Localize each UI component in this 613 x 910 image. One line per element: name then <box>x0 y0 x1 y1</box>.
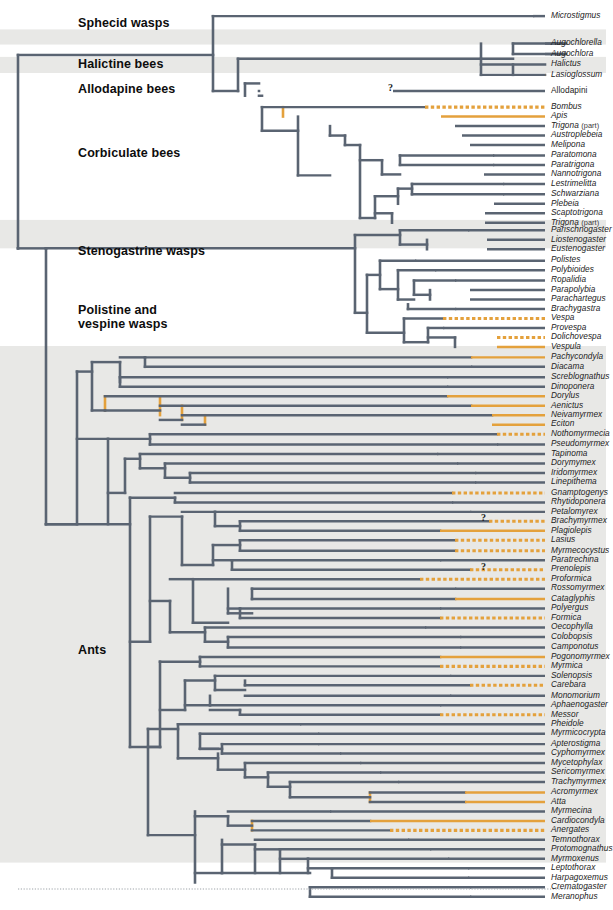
taxon-label: Rhytidoponera <box>551 497 606 506</box>
taxon-label: Austroplebeia <box>551 130 602 139</box>
clade-group-label: Halictine bees <box>78 57 163 71</box>
taxon-label: Augochlorella <box>551 38 602 47</box>
clade-group-label: vespine wasps <box>78 317 168 331</box>
taxon-label: Pseudomyrmex <box>551 439 609 448</box>
taxon-label: Trachymyrmex <box>551 777 606 786</box>
uncertainty-marker: ? <box>481 512 486 523</box>
taxon-label: Screblognathus <box>551 372 609 381</box>
taxon-label: Meranophus <box>551 892 598 901</box>
taxon-label: Dorylus <box>551 391 579 400</box>
taxon-label: Acromyrmex <box>551 787 598 796</box>
uncertainty-marker: ? <box>481 561 486 572</box>
clade-group-label: Allodapine bees <box>78 82 175 96</box>
taxon-label: Polybioides <box>551 265 594 274</box>
clade-group-label: Ants <box>78 643 106 657</box>
taxon-label: Myrmecina <box>551 806 592 815</box>
taxon-label: Anergates <box>551 825 589 834</box>
taxon-label: Lasius <box>551 535 575 544</box>
taxon-label: Aphaenogaster <box>551 700 608 709</box>
taxon-label: Nannotrigona <box>551 169 601 178</box>
taxon-label: Dorymymex <box>551 458 596 467</box>
taxon-label: Halictus <box>551 59 581 68</box>
taxon-label: Vespula <box>551 342 581 351</box>
taxon-label: Leptothorax <box>551 863 595 872</box>
taxon-label: Lestrimelitta <box>551 179 596 188</box>
taxon-label: Melipona <box>551 140 585 149</box>
taxon-label: Nothomyrmecia <box>551 429 610 438</box>
taxon-label: Rossomyrmex <box>551 583 605 592</box>
taxon-label: Myrmicocrypta <box>551 728 606 737</box>
taxon-label: Schwarziana <box>551 189 599 198</box>
taxon-label: Pachycondyla <box>551 352 603 361</box>
clade-group-label: Sphecid wasps <box>78 16 170 30</box>
taxon-label: Sericomyrmex <box>551 767 605 776</box>
taxon-label: Colobopsis <box>551 632 593 641</box>
clade-group-label: Corbiculate bees <box>78 146 180 160</box>
taxon-label: Brachymyrmex <box>551 516 607 525</box>
taxon-label: Paratomona <box>551 150 597 159</box>
uncertainty-marker: ? <box>388 82 393 93</box>
taxon-label: Oecophylla <box>551 622 593 631</box>
taxon-label: Scaptotrigona <box>551 208 603 217</box>
taxon-label: Parischnogaster <box>551 225 612 234</box>
taxon-label: Lasioglossum <box>551 70 602 79</box>
taxon-label: Microstigmus <box>551 11 600 20</box>
taxon-label: Camponotus <box>551 642 599 651</box>
taxon-label: Protomognathus <box>551 844 613 853</box>
taxon-label: Linepithema <box>551 477 597 486</box>
taxon-label: Carebara <box>551 680 586 689</box>
taxon-label: Parachartegus <box>551 294 606 303</box>
taxon-label: Eustenogaster <box>551 244 605 253</box>
highlight-band <box>0 29 606 44</box>
taxon-label: Crematogaster <box>551 882 607 891</box>
taxon-label: Vespa <box>551 313 574 322</box>
taxon-label: Dolichovespa <box>551 332 601 341</box>
clade-group-label: Polistine and <box>78 303 157 317</box>
taxon-label: Allodapini <box>551 86 587 95</box>
taxon-label: Myrmica <box>551 661 583 670</box>
taxon-label: Diacama <box>551 362 584 371</box>
taxon-label: Polyergus <box>551 603 588 612</box>
clade-group-label: Stenogastrine wasps <box>78 244 205 258</box>
taxon-label: Augochlora <box>551 49 593 58</box>
